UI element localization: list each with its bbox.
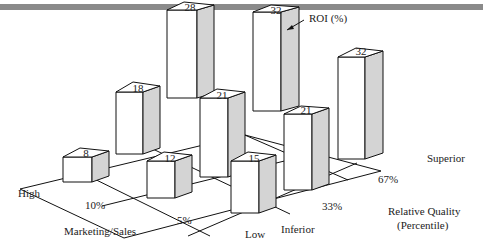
axis-label-marketing-sales: Marketing/Sales [64, 225, 136, 237]
svg-text:8: 8 [83, 147, 89, 159]
axis-label-quality-line2: (Percentile) [397, 219, 449, 232]
label-high: High [18, 187, 41, 199]
bar-superior-low: 32 [338, 45, 383, 159]
svg-text:32: 32 [271, 4, 282, 16]
svg-text:15: 15 [249, 152, 261, 164]
bar-inferior-low: 15 [231, 152, 276, 213]
svg-text:ROI (%): ROI (%) [309, 12, 348, 25]
tick-33: 33% [322, 200, 342, 212]
svg-text:21: 21 [301, 104, 312, 116]
tick-67: 67% [378, 173, 398, 185]
bar-inferior-mid: 12 [147, 152, 192, 198]
bar-inferior-high: 8 [63, 147, 109, 182]
label-superior: Superior [427, 152, 465, 164]
tick-5: 5% [177, 214, 192, 226]
roi-3d-bar-chart: 28 32 32 18 21 21 8 [0, 0, 483, 252]
bar-superior-mid: 32 [253, 4, 299, 111]
svg-text:32: 32 [356, 45, 367, 57]
bar-superior-high: 28 [167, 1, 214, 98]
label-inferior: Inferior [281, 223, 315, 235]
label-low: Low [245, 228, 265, 240]
svg-text:12: 12 [165, 152, 176, 164]
tick-10: 10% [85, 199, 105, 211]
bar-average-low: 21 [284, 104, 329, 190]
svg-text:21: 21 [217, 89, 228, 101]
svg-text:28: 28 [185, 1, 197, 13]
svg-text:18: 18 [133, 82, 145, 94]
axis-label-quality-line1: Relative Quality [388, 205, 461, 217]
bar-average-high: 18 [116, 82, 160, 154]
